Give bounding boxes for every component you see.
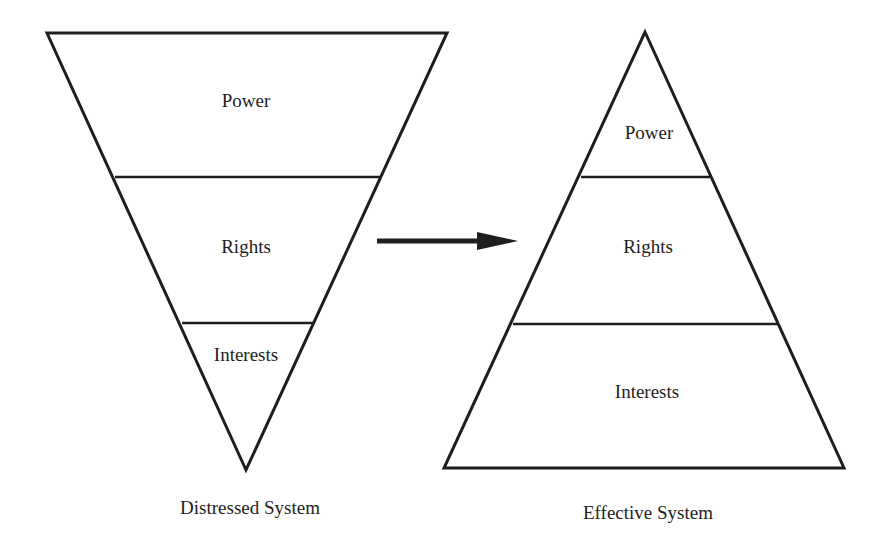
distressed-layer-rights-label: Rights xyxy=(221,236,271,258)
distressed-layer-interests-label: Interests xyxy=(214,344,278,366)
effective-layer-rights-label: Rights xyxy=(623,236,673,258)
transition-arrow xyxy=(377,232,518,250)
arrow-head-icon xyxy=(477,232,518,250)
effective-layer-power-label: Power xyxy=(625,122,674,144)
distressed-system-caption: Distressed System xyxy=(180,497,320,519)
effective-layer-interests-label: Interests xyxy=(615,381,679,403)
effective-system-caption: Effective System xyxy=(583,502,713,524)
distressed-layer-power-label: Power xyxy=(222,90,271,112)
diagram-canvas xyxy=(0,0,882,553)
